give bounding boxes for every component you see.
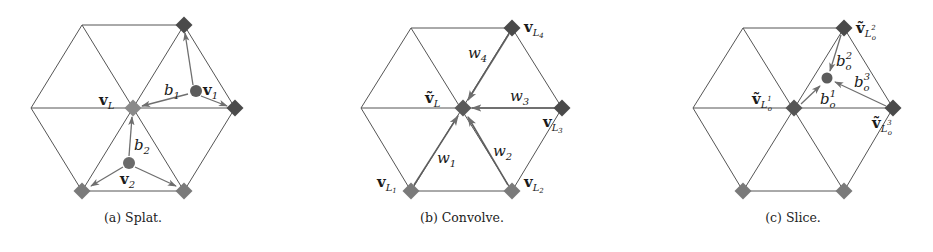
lattice-vertex-diamond [74,183,91,200]
lattice-vertex-diamond [885,100,902,117]
lattice-vertex-diamond [227,100,244,117]
figure-canvas: vL b1 v1 b2 v2 (a) Splat. ṽL w4 w3 w1 w2… [0,0,933,252]
lattice-vertex-center [786,100,803,117]
label-b1: b1 [164,81,180,101]
label-v2: v2 [119,170,135,190]
lattice-vertex-diamond [176,17,193,34]
label-v1: v1 [202,81,218,101]
caption-slice: (c) Slice. [765,210,821,225]
label-vtilde-L3: ṽL3o [871,114,892,137]
label-b-o-1: bo1 [820,88,836,110]
lattice-vertex-diamond [504,183,521,200]
label-vtilde-L: ṽL [424,89,441,109]
panel-convolve: ṽL w4 w3 w1 w2 vL4 vL3 vL1 vL2 (b) Convo… [361,18,570,225]
panel-splat: vL b1 v1 b2 v2 (a) Splat. [31,17,243,225]
output-point [822,73,833,84]
lattice-vertex-diamond [836,183,853,200]
slice-arrows [801,35,886,106]
label-w4: w4 [468,44,487,64]
lattice-vertex-diamond [554,100,571,117]
input-point-v1 [190,85,202,97]
label-b2: b2 [134,136,150,156]
lattice-vertex-diamond [176,183,193,200]
lattice-vertex-diamond [836,20,853,37]
lattice-vertex-diamond [735,183,752,200]
label-b-o-3: bo3 [854,71,870,93]
label-vL: vL [98,91,115,111]
label-vL2: vL2 [523,173,544,195]
lattice-vertex-center [125,100,142,117]
lattice-vertex-diamond [403,183,420,200]
caption-splat: (a) Splat. [104,210,162,225]
lattice-vertex-diamond [504,20,521,37]
caption-convolve: (b) Convolve. [420,210,504,225]
label-vL1: vL1 [376,173,397,195]
label-vtilde-L1: ṽL1o [751,90,772,113]
label-w2: w2 [493,142,512,162]
label-b-o-2: bo2 [836,50,852,72]
label-vL4: vL4 [523,18,544,40]
label-w3: w3 [510,87,529,107]
label-vL3: vL3 [542,113,563,135]
label-w1: w1 [437,149,456,169]
panel-slice: ṽL2o ṽL1o ṽL3o bo2 bo3 bo1 (c) Slice. [693,19,901,225]
input-point-v2 [123,157,135,169]
label-vtilde-L2: ṽL2o [855,19,876,42]
